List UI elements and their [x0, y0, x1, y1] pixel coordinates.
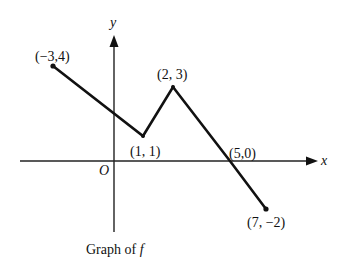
- chart-caption: Graph of f: [86, 242, 146, 257]
- y-axis-label: y: [108, 15, 117, 30]
- graph-of-f: y x O (−3,4) (1, 1) (2, 3) (5,0) (7, −2)…: [0, 0, 339, 267]
- origin-label: O: [99, 163, 109, 178]
- point-label: (5,0): [229, 146, 256, 162]
- point-dot: [171, 85, 175, 89]
- point-label: (−3,4): [35, 49, 70, 65]
- x-axis-label: x: [320, 153, 328, 168]
- function-line: [53, 66, 266, 209]
- point-dot: [263, 206, 268, 211]
- point-label: (2, 3): [157, 67, 188, 83]
- point-label: (7, −2): [247, 215, 286, 231]
- y-axis-arrow-icon: [110, 35, 119, 47]
- point-dot: [50, 63, 55, 68]
- caption-function-name: f: [140, 242, 146, 257]
- point-dot: [141, 134, 145, 138]
- caption-prefix: Graph of: [86, 242, 140, 257]
- x-axis-arrow-icon: [306, 157, 318, 166]
- point-label: (1, 1): [130, 144, 161, 160]
